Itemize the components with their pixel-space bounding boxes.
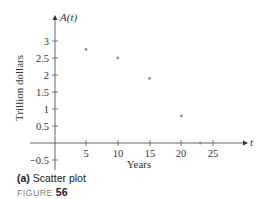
x-tick-5: 5 <box>83 148 88 159</box>
chart-caption: (a) Scatter plot <box>17 172 86 184</box>
caption-text: Scatter plot <box>33 172 86 184</box>
data-point <box>180 114 183 117</box>
y-tick-3: 3 <box>44 36 49 47</box>
y-axis-arrow-icon <box>53 15 58 20</box>
data-point <box>148 77 151 80</box>
y-tick-1.5: 1.5 <box>36 87 49 98</box>
y-tick-2: 2 <box>44 70 49 81</box>
data-point <box>199 142 202 145</box>
data-point <box>85 48 88 51</box>
x-tick-10: 10 <box>113 148 124 159</box>
y-axis-variable: A(t) <box>59 11 77 24</box>
x-axis-arrow-icon <box>243 141 248 146</box>
x-tick-25: 25 <box>208 148 219 159</box>
figure-number: 56 <box>56 186 68 198</box>
y-tick-0.5: 0.5 <box>36 121 49 132</box>
data-points <box>85 48 202 144</box>
y-axis-title: Trillion dollars <box>13 55 25 121</box>
x-tick-20: 20 <box>176 148 187 159</box>
y-tick-2.5: 2.5 <box>36 53 49 64</box>
caption-label: (a) <box>17 172 30 184</box>
y-tick-neg-0.5: −0.5 <box>30 155 49 166</box>
data-point <box>116 57 119 60</box>
figure-label: FIGURE 56 <box>17 186 68 198</box>
x-axis-title: Years <box>127 158 152 170</box>
x-axis-variable: t <box>250 136 254 148</box>
y-tick-1: 1 <box>44 104 49 115</box>
figure-word: FIGURE <box>17 188 53 198</box>
scatter-chart: A(t) t 3 2.5 2 1.5 1 0.5 −0.5 5 10 15 20… <box>0 0 267 170</box>
